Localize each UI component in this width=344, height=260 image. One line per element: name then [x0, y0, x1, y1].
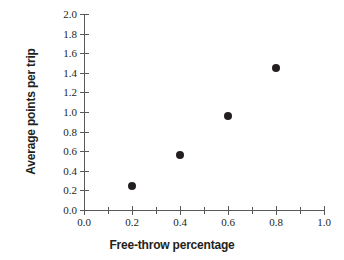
y-tick-label: 0.0	[63, 205, 77, 216]
y-tick-mark	[80, 53, 89, 54]
y-tick-label: 0.8	[63, 126, 77, 137]
x-tick-mark	[132, 206, 133, 215]
scatter-plot-figure: 0.00.20.40.60.81.01.21.41.61.82.0 0.00.2…	[0, 0, 344, 260]
y-tick-mark	[80, 171, 89, 172]
x-minor-tick-mark	[156, 207, 157, 214]
x-tick-label: 0.2	[125, 217, 139, 228]
y-tick-label: 1.4	[63, 67, 77, 78]
data-point	[176, 151, 184, 159]
y-tick-label: 1.0	[63, 107, 77, 118]
y-tick-mark	[80, 132, 89, 133]
x-tick-mark	[324, 206, 325, 215]
x-tick-label: 0.6	[221, 217, 235, 228]
y-tick-mark	[80, 151, 89, 152]
y-tick-label: 0.2	[63, 185, 77, 196]
y-axis-title: Average points per trip	[24, 13, 42, 210]
y-tick-mark	[80, 92, 89, 93]
y-tick-label: 0.6	[63, 146, 77, 157]
y-tick-mark	[80, 73, 89, 74]
y-tick-mark	[80, 34, 89, 35]
y-tick-label: 1.6	[63, 48, 77, 59]
y-tick-label: 2.0	[63, 9, 77, 20]
y-tick-label: 1.2	[63, 87, 77, 98]
y-tick-label: 1.8	[63, 28, 77, 39]
data-point	[224, 112, 232, 120]
x-minor-tick-mark	[300, 207, 301, 214]
x-minor-tick-mark	[252, 207, 253, 214]
x-tick-mark	[276, 206, 277, 215]
x-tick-label: 0.0	[77, 217, 91, 228]
y-tick-mark	[80, 14, 89, 15]
y-tick-label: 0.4	[63, 165, 77, 176]
y-tick-mark	[80, 190, 89, 191]
x-minor-tick-mark	[108, 207, 109, 214]
x-tick-label: 0.4	[173, 217, 187, 228]
x-axis-title: Free-throw percentage	[0, 238, 344, 252]
x-tick-label: 1.0	[317, 217, 331, 228]
plot-area: 0.00.20.40.60.81.01.21.41.61.82.0 0.00.2…	[84, 14, 324, 211]
x-tick-label: 0.8	[269, 217, 283, 228]
data-point	[128, 182, 136, 190]
x-tick-mark	[180, 206, 181, 215]
x-tick-mark	[84, 206, 85, 215]
x-tick-mark	[228, 206, 229, 215]
y-tick-mark	[80, 112, 89, 113]
x-minor-tick-mark	[204, 207, 205, 214]
data-point	[272, 64, 280, 72]
